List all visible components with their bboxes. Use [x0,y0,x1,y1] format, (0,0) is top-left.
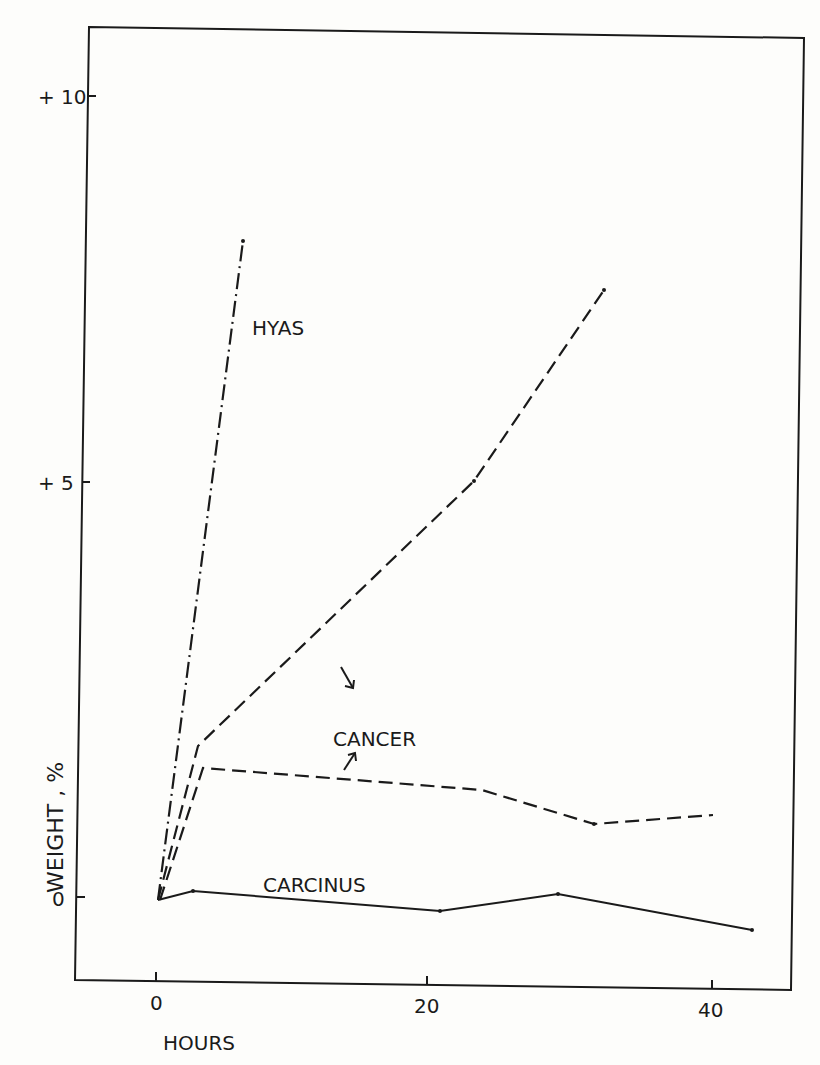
plot-frame [75,27,804,990]
arrow-up-icon [344,753,356,770]
series-cancer-upper-line [158,290,604,900]
arrow-down-icon [341,667,354,688]
series-carcinus-line [158,891,752,930]
label-cancer: CANCER [333,727,416,751]
y-tick-label-5: + 5 [38,471,74,495]
x-tick-label-20: 20 [414,994,439,1018]
x-axis-title: HOURS [163,1031,235,1055]
series-cancer-lower-line [160,768,713,900]
data-point-markers [191,239,754,932]
x-tick-label-40: 40 [698,998,723,1022]
y-tick-label-10: + 10 [38,85,87,109]
y-axis-title: WEIGHT , % [43,762,68,893]
label-hyas: HYAS [252,316,304,340]
x-axis-ticks [156,972,712,989]
series-hyas-line [158,241,243,900]
x-tick-label-0: 0 [150,991,163,1015]
line-chart: + 10 + 5 0 0 20 40 HOURS WEIGHT , % HYAS… [0,0,820,1065]
label-carcinus: CARCINUS [263,873,366,897]
